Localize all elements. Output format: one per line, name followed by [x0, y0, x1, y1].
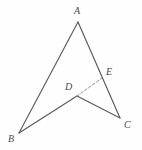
vertex-label-d: D: [65, 82, 72, 92]
vertex-label-a: A: [74, 6, 80, 16]
geometry-figure: A B C D E: [0, 0, 142, 150]
vertex-label-c: C: [124, 120, 131, 130]
figure-canvas: [0, 0, 142, 150]
vertex-label-e: E: [106, 67, 112, 77]
vertex-label-b: B: [8, 134, 14, 144]
